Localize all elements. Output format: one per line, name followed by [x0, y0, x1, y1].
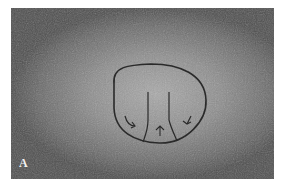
panel-label: A [19, 156, 28, 171]
surgical-marking-drawing [11, 8, 274, 179]
skin-photograph: A [11, 8, 274, 179]
